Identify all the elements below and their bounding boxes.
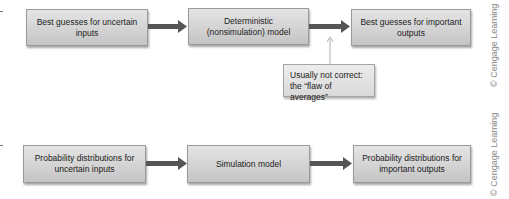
left-tick-mark-bottom: [0, 145, 3, 146]
copyright-credit-top: © Cengage Learning: [489, 4, 499, 87]
left-tick-mark-top: [0, 11, 3, 12]
box-probability-distributions-outputs: Probability distributions for important …: [353, 145, 471, 183]
arrow-right-icon: [146, 156, 188, 172]
box-label: Simulation model: [216, 159, 281, 170]
box-label: Probability distributions for uncertain …: [30, 153, 139, 175]
arrow-up-icon: [325, 35, 335, 65]
box-best-guesses-outputs: Best guesses for important outputs: [351, 9, 471, 46]
box-label: Deterministic (nonsimulation) model: [195, 16, 302, 38]
arrow-right-icon: [148, 19, 188, 35]
box-label: Best guesses for uncertain inputs: [33, 17, 141, 39]
box-label: Probability distributions for important …: [360, 153, 464, 175]
box-simulation-model: Simulation model: [187, 145, 310, 183]
box-label: Best guesses for important outputs: [358, 17, 464, 39]
box-best-guesses-inputs: Best guesses for uncertain inputs: [26, 9, 148, 46]
flaw-of-averages-note: Usually not correct: the “flaw of averag…: [283, 64, 375, 97]
box-probability-distributions-inputs: Probability distributions for uncertain …: [23, 145, 146, 183]
note-label: Usually not correct: the “flaw of averag…: [290, 70, 363, 102]
box-deterministic-model: Deterministic (nonsimulation) model: [188, 8, 309, 45]
copyright-credit-bottom: © Cengage Learning: [489, 113, 499, 196]
arrow-right-icon: [310, 156, 353, 172]
arrow-right-icon: [309, 19, 351, 35]
